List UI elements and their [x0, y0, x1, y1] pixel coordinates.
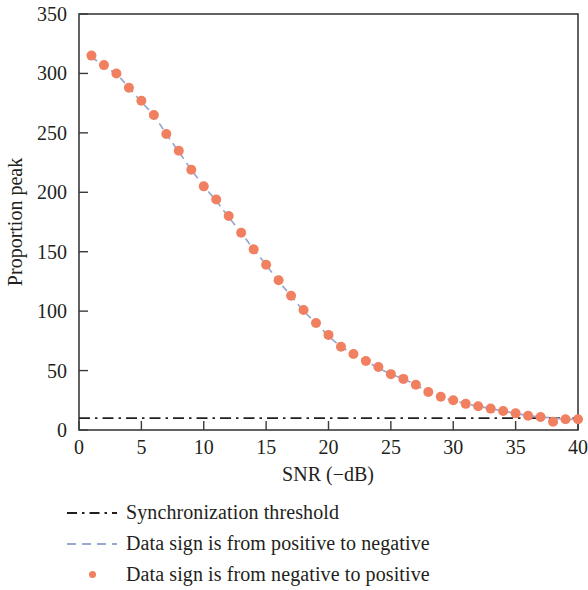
data-point [561, 414, 571, 424]
y-tick-label: 50 [47, 360, 67, 382]
x-tick-label: 30 [443, 436, 463, 458]
y-axis-title: Proportion peak [4, 158, 27, 286]
dashed-line-glyph [66, 538, 118, 550]
data-point [398, 374, 408, 384]
data-point [548, 417, 558, 427]
data-point [461, 399, 471, 409]
dash-dot-line-key-icon [58, 497, 126, 528]
data-point [348, 349, 358, 359]
data-point [111, 68, 121, 78]
x-axis-title: SNR (−dB) [282, 463, 374, 486]
data-point [249, 244, 259, 254]
data-point [311, 318, 321, 328]
data-point [261, 260, 271, 270]
x-tick-label: 0 [74, 436, 84, 458]
data-point [473, 401, 483, 411]
data-point [211, 194, 221, 204]
legend-item-positive-to-negative: Data sign is from positive to negative [58, 528, 578, 559]
plot-area-border [79, 14, 578, 430]
legend-label-negative-to-positive: Data sign is from negative to positive [126, 563, 430, 586]
chart-legend: Synchronization threshold Data sign is f… [58, 497, 578, 590]
x-tick-label: 15 [256, 436, 276, 458]
data-point [224, 211, 234, 221]
data-point [236, 228, 246, 238]
y-tick-label: 150 [37, 241, 67, 263]
data-point [161, 129, 171, 139]
y-tick-label: 100 [37, 300, 67, 322]
data-point [511, 408, 521, 418]
data-point [324, 330, 334, 340]
data-point [536, 412, 546, 422]
dot-marker-key-icon [58, 559, 126, 590]
data-point [448, 395, 458, 405]
legend-item-negative-to-positive: Data sign is from negative to positive [58, 559, 578, 590]
data-point [274, 275, 284, 285]
legend-item-synchronization-threshold: Synchronization threshold [58, 497, 578, 528]
legend-label-positive-to-negative: Data sign is from positive to negative [126, 532, 430, 555]
x-tick-label: 10 [194, 436, 214, 458]
data-point [299, 305, 309, 315]
data-point [86, 51, 96, 61]
data-point [136, 96, 146, 106]
data-point [199, 181, 209, 191]
data-point [423, 387, 433, 397]
data-point [486, 404, 496, 414]
x-tick-label: 20 [319, 436, 339, 458]
x-tick-label: 40 [568, 436, 588, 458]
dash-dot-line-glyph [66, 507, 118, 519]
chart-figure: 0510152025303540 050100150200250300350 S… [0, 0, 588, 590]
x-tick-label: 35 [506, 436, 526, 458]
data-point [99, 60, 109, 70]
data-point [124, 83, 134, 93]
data-point [361, 356, 371, 366]
data-point [373, 362, 383, 372]
y-tick-label: 300 [37, 62, 67, 84]
y-tick-label: 250 [37, 122, 67, 144]
data-point [186, 165, 196, 175]
data-point [149, 110, 159, 120]
data-point [498, 406, 508, 416]
data-point [573, 414, 583, 424]
data-point [386, 369, 396, 379]
x-axis-tick-labels: 0510152025303540 [74, 436, 588, 458]
legend-label-synchronization-threshold: Synchronization threshold [126, 501, 339, 524]
y-tick-label: 200 [37, 181, 67, 203]
y-axis-tick-labels: 050100150200250300350 [37, 3, 67, 441]
data-point [336, 342, 346, 352]
dashed-line-key-icon [58, 528, 126, 559]
x-tick-label: 25 [381, 436, 401, 458]
data-point [436, 392, 446, 402]
plot-frame [79, 14, 578, 430]
data-point [411, 380, 421, 390]
x-tick-label: 5 [136, 436, 146, 458]
data-point [174, 146, 184, 156]
dot-glyph [89, 571, 96, 578]
data-point [286, 291, 296, 301]
data-point [523, 411, 533, 421]
y-tick-label: 350 [37, 3, 67, 25]
y-tick-label: 0 [57, 419, 67, 441]
